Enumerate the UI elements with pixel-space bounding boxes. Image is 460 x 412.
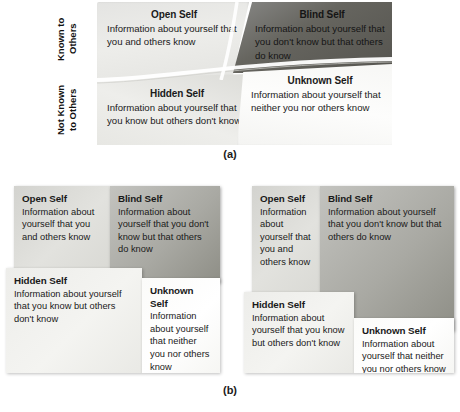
panel-a-quadrant-hidden-self: Hidden Self Information about yourself t… (97, 74, 249, 145)
johari-window-figure: Known to Others Not Known to Others Open… (0, 0, 460, 412)
panel-a-quadrant-open-self: Open Self Information about yourself tha… (97, 2, 249, 86)
quadrant-body: Information about yourself that you and … (107, 22, 241, 48)
panel-b-left-quadrant-unknown-self: Unknown Self Information about yourself … (142, 278, 220, 373)
quadrant-body: Information about yourself that neither … (251, 88, 389, 114)
quadrant-body: Information about yourself that neither … (150, 310, 212, 373)
quadrant-title: Unknown Self (251, 74, 389, 87)
quadrant-body: Information about yourself that you and … (260, 206, 312, 269)
panel-b-left-quadrant-open-self: Open Self Information about yourself tha… (14, 186, 110, 274)
quadrant-title: Hidden Self (14, 275, 134, 288)
quadrant-body: Information about yourself that you don'… (328, 206, 446, 244)
quadrant-body: Information about yourself that you don'… (118, 206, 212, 256)
quadrant-title: Hidden Self (107, 87, 247, 100)
quadrant-body: Information about yourself that you don'… (255, 22, 389, 62)
panel-b-right-quadrant-hidden-self: Hidden Self Information about yourself t… (244, 292, 354, 373)
quadrant-body: Information about yourself that you know… (252, 312, 346, 350)
panel-a-quadrant-unknown-self: Unknown Self Information about yourself … (237, 64, 392, 145)
panel-b-left-quadrant-hidden-self: Hidden Self Information about yourself t… (6, 268, 142, 373)
panel-a-quadrant-stage: Open Self Information about yourself tha… (97, 2, 392, 145)
panel-b-right-quadrant-unknown-self: Unknown Self Information about yourself … (354, 318, 454, 373)
panel-b-johari-variants: Open Self Information about yourself tha… (0, 180, 460, 412)
quadrant-text: Open Self Information about yourself tha… (107, 8, 241, 49)
quadrant-text: Hidden Self Information about yourself t… (107, 87, 247, 128)
quadrant-title: Blind Self (118, 193, 212, 206)
quadrant-title: Blind Self (328, 193, 446, 206)
panel-b-right-diagram: Open Self Information about yourself tha… (240, 180, 458, 380)
quadrant-title: Hidden Self (252, 299, 346, 312)
quadrant-body: Information about yourself that you know… (107, 101, 247, 127)
quadrant-title: Unknown Self (362, 325, 446, 338)
quadrant-text: Unknown Self Information about yourself … (251, 74, 389, 115)
quadrant-body: Information about yourself that neither … (362, 338, 446, 373)
panel-a-quadrant-blind-self: Blind Self Information about yourself th… (233, 2, 392, 73)
panel-b-left-diagram: Open Self Information about yourself tha… (6, 180, 224, 380)
quadrant-text: Blind Self Information about yourself th… (255, 8, 389, 62)
axis-label-not-known-to-others: Not Known to Others (55, 76, 81, 144)
quadrant-body: Information about yourself that you and … (22, 206, 102, 244)
axis-label-known-to-others: Known to Others (55, 8, 81, 70)
caption-b: (b) (0, 384, 460, 396)
quadrant-title: Open Self (22, 193, 102, 206)
panel-a-johari-window: Known to Others Not Known to Others Open… (0, 0, 460, 170)
quadrant-body: Information about yourself that you know… (14, 288, 134, 326)
quadrant-title: Open Self (260, 193, 312, 206)
quadrant-title: Blind Self (255, 8, 389, 21)
caption-a: (a) (0, 148, 460, 160)
quadrant-title: Open Self (107, 8, 241, 21)
quadrant-title: Unknown Self (150, 285, 212, 310)
panel-b-right-quadrant-open-self: Open Self Information about yourself tha… (252, 186, 320, 298)
